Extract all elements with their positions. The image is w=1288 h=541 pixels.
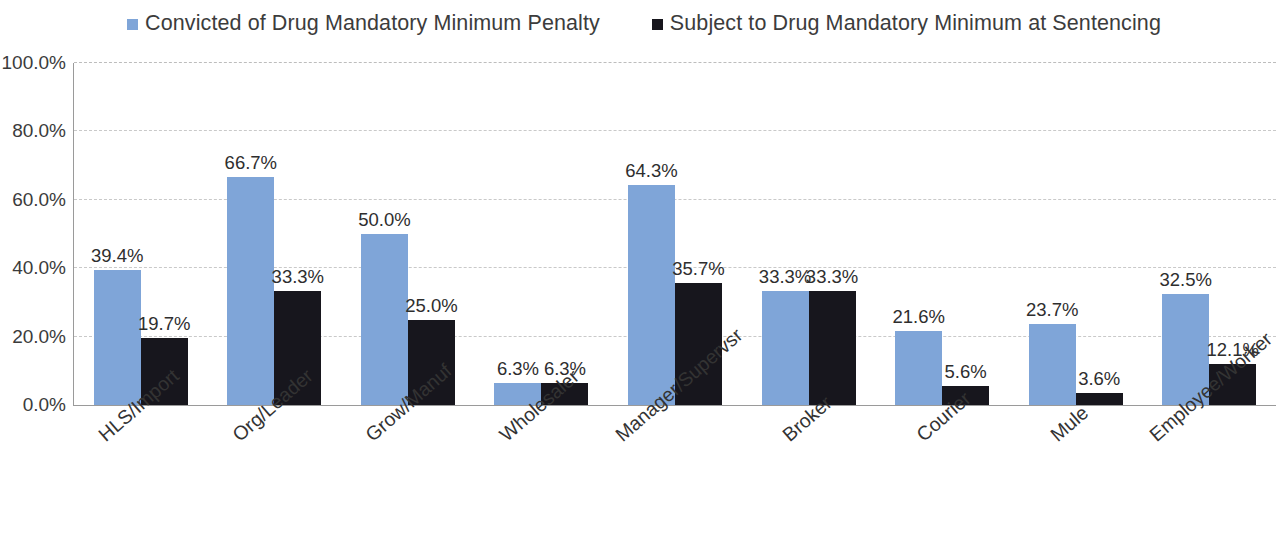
bar[interactable]: 23.7%	[1029, 324, 1076, 405]
bar-group: 6.3%6.3%	[475, 63, 609, 405]
chart-legend: Convicted of Drug Mandatory Minimum Pena…	[0, 6, 1288, 40]
x-axis-slot: Wholesaler	[474, 423, 608, 541]
bar[interactable]: 66.7%	[227, 177, 274, 405]
legend-entry-convicted[interactable]: Convicted of Drug Mandatory Minimum Pena…	[127, 11, 600, 36]
bar-group: 39.4%19.7%	[74, 63, 208, 405]
y-axis-tick-label: 60.0%	[12, 189, 66, 211]
x-axis: HLS/ImportOrg/LeaderGrow/ManufWholesaler…	[73, 423, 1276, 541]
bar-value-label: 66.7%	[225, 152, 277, 174]
bar-value-label: 21.6%	[892, 306, 944, 328]
plot-area: 39.4%19.7%66.7%33.3%50.0%25.0%6.3%6.3%64…	[73, 63, 1276, 406]
square-marker-icon	[652, 19, 663, 30]
bar-value-label: 50.0%	[358, 209, 410, 231]
y-axis-tick-label: 80.0%	[12, 120, 66, 142]
bar[interactable]: 39.4%	[94, 270, 141, 405]
x-axis-slot: HLS/Import	[73, 423, 207, 541]
x-axis-slot: Org/Leader	[207, 423, 341, 541]
bar-value-label: 23.7%	[1026, 299, 1078, 321]
x-axis-slot: Manager/Supervsr	[608, 423, 742, 541]
bar-group: 23.7%3.6%	[1009, 63, 1143, 405]
bar-value-label: 33.3%	[272, 266, 324, 288]
bar-value-label: 6.3%	[497, 358, 539, 380]
bar[interactable]: 50.0%	[361, 234, 408, 405]
bar-value-label: 25.0%	[405, 295, 457, 317]
bar[interactable]: 21.6%	[895, 331, 942, 405]
square-marker-icon	[127, 19, 138, 30]
y-axis: 0.0%20.0%40.0%60.0%80.0%100.0%	[0, 48, 70, 423]
y-axis-tick-label: 100.0%	[2, 52, 66, 74]
bar-value-label: 32.5%	[1160, 269, 1212, 291]
legend-label-subject: Subject to Drug Mandatory Minimum at Sen…	[670, 11, 1161, 36]
bar-value-label: 35.7%	[672, 258, 724, 280]
legend-label-convicted: Convicted of Drug Mandatory Minimum Pena…	[145, 11, 600, 36]
bar-group: 33.3%33.3%	[742, 63, 876, 405]
bar-value-label: 3.6%	[1078, 368, 1120, 390]
plot-wrapper: 0.0%20.0%40.0%60.0%80.0%100.0% 39.4%19.7…	[0, 48, 1288, 423]
bar-group: 66.7%33.3%	[208, 63, 342, 405]
legend-entry-subject[interactable]: Subject to Drug Mandatory Minimum at Sen…	[652, 11, 1161, 36]
bar[interactable]: 33.3%	[809, 291, 856, 405]
y-axis-tick-label: 40.0%	[12, 257, 66, 279]
bar[interactable]: 33.3%	[762, 291, 809, 405]
bar-value-label: 64.3%	[625, 160, 677, 182]
bar-value-label: 39.4%	[91, 245, 143, 267]
bar-value-label: 33.3%	[806, 266, 858, 288]
y-axis-tick-label: 20.0%	[12, 326, 66, 348]
bar-chart: Convicted of Drug Mandatory Minimum Pena…	[0, 0, 1288, 541]
bars-layer: 39.4%19.7%66.7%33.3%50.0%25.0%6.3%6.3%64…	[74, 63, 1276, 405]
x-axis-slot: Employee/Worker	[1142, 423, 1276, 541]
x-axis-slot: Broker	[741, 423, 875, 541]
x-axis-slot: Grow/Manuf	[340, 423, 474, 541]
bar-group: 50.0%25.0%	[341, 63, 475, 405]
bar-group: 21.6%5.6%	[875, 63, 1009, 405]
bar-value-label: 5.6%	[945, 361, 987, 383]
bar-value-label: 19.7%	[138, 313, 190, 335]
bar[interactable]: 3.6%	[1076, 393, 1123, 405]
x-axis-slot: Mule	[1009, 423, 1143, 541]
x-axis-slot: Courier	[875, 423, 1009, 541]
bar[interactable]: 64.3%	[628, 185, 675, 405]
y-axis-tick-label: 0.0%	[23, 394, 66, 416]
bar-value-label: 33.3%	[759, 266, 811, 288]
